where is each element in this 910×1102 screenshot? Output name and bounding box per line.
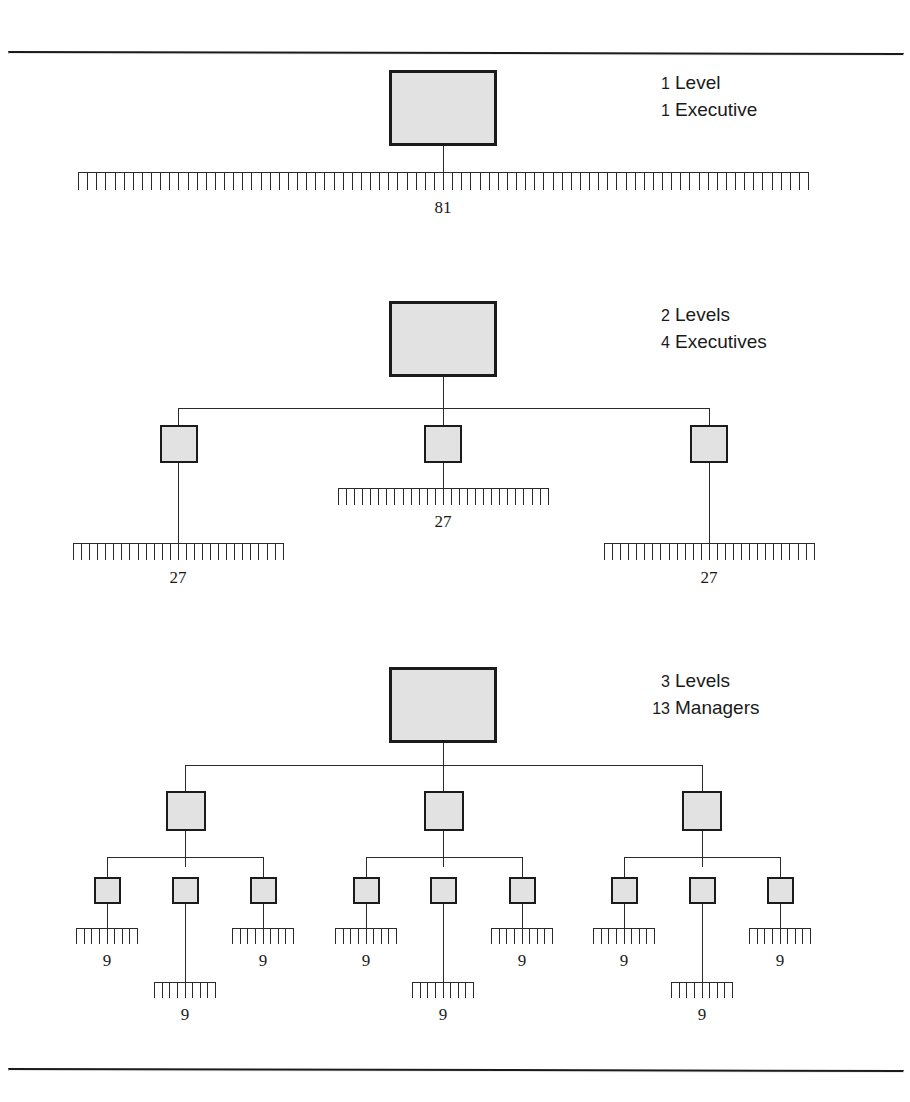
- supervisor-box-p3-c1: [611, 877, 638, 904]
- rake-tooth: [757, 928, 758, 944]
- rake-tooth: [177, 982, 178, 998]
- connector-stem-p3-2: [443, 831, 444, 867]
- supervisor-box-p3-b1: [353, 877, 380, 904]
- rake-teeth-9: [335, 928, 397, 944]
- rake-tooth: [396, 928, 397, 944]
- rake-tooth: [679, 982, 680, 998]
- rake-tooth: [263, 928, 264, 944]
- rake-tooth: [724, 982, 725, 998]
- connector-stem-p3-1: [185, 831, 186, 867]
- connector-stem-p3-a1: [107, 904, 108, 929]
- connector-horizontal-p3-c: [624, 857, 780, 858]
- rake-tooth: [255, 928, 256, 944]
- rake-teeth-9: [491, 928, 553, 944]
- connector-stem-p3-a2: [185, 904, 186, 983]
- rake-tooth: [343, 928, 344, 944]
- supervisor-box-p3-b3: [509, 877, 536, 904]
- rake-teeth-9: [232, 928, 294, 944]
- rake-tooth: [787, 928, 788, 944]
- rake-tooth: [694, 982, 695, 998]
- rake-teeth-9: [593, 928, 655, 944]
- worker-rake-9-c2: [671, 982, 733, 998]
- connector-vertical-top-p3: [443, 743, 444, 791]
- supervisor-box-p3-a1: [94, 877, 121, 904]
- connector-stem-p3-c3: [780, 904, 781, 929]
- rake-tooth: [702, 982, 703, 998]
- manager-box-p3-3: [682, 791, 722, 831]
- worker-count-9-b3: 9: [518, 951, 527, 971]
- rake-tooth: [810, 928, 811, 944]
- rake-tooth: [802, 928, 803, 944]
- connector-drop-p3-a1: [107, 857, 108, 877]
- rake-tooth: [129, 928, 130, 944]
- worker-count-9-c3: 9: [776, 951, 785, 971]
- worker-rake-9-a3: [232, 928, 294, 944]
- connector-drop-p3-b3: [522, 857, 523, 877]
- connector-stem-p3-c1: [624, 904, 625, 929]
- worker-rake-9-a1: [76, 928, 138, 944]
- connector-stem-p3-b3: [522, 904, 523, 929]
- worker-rake-9-c1: [593, 928, 655, 944]
- rake-tooth: [671, 982, 672, 998]
- worker-count-9-a2: 9: [181, 1005, 190, 1025]
- worker-rake-9-b3: [491, 928, 553, 944]
- rake-tooth: [293, 928, 294, 944]
- worker-rake-9-a2: [154, 982, 216, 998]
- rake-tooth: [491, 928, 492, 944]
- rake-tooth: [207, 982, 208, 998]
- worker-count-9-a1: 9: [103, 951, 112, 971]
- worker-rake-9-b2: [412, 982, 474, 998]
- connector-drop-p3-1: [185, 765, 186, 791]
- rake-tooth: [350, 928, 351, 944]
- rake-tooth: [608, 928, 609, 944]
- rake-tooth: [285, 928, 286, 944]
- rake-tooth: [240, 928, 241, 944]
- rake-tooth: [137, 928, 138, 944]
- rake-tooth: [107, 928, 108, 944]
- rake-tooth: [366, 928, 367, 944]
- rake-tooth: [450, 982, 451, 998]
- figure-page: 81 1Level 1Executive 27: [0, 0, 910, 1102]
- rake-teeth-9: [154, 982, 216, 998]
- rake-tooth: [654, 928, 655, 944]
- rake-tooth: [772, 928, 773, 944]
- rake-tooth: [732, 982, 733, 998]
- rake-tooth: [154, 982, 155, 998]
- rake-tooth: [122, 928, 123, 944]
- connector-stem-p3-3: [702, 831, 703, 867]
- legend-roles-word-p3: Managers: [675, 697, 760, 718]
- connector-drop-p3-b1: [366, 857, 367, 877]
- rake-tooth: [388, 928, 389, 944]
- rake-tooth: [624, 928, 625, 944]
- supervisor-box-p3-a3: [250, 877, 277, 904]
- rake-teeth-9: [671, 982, 733, 998]
- rake-tooth: [686, 982, 687, 998]
- connector-stem-p3-b1: [366, 904, 367, 929]
- rake-tooth: [709, 982, 710, 998]
- rake-tooth: [593, 928, 594, 944]
- rake-tooth: [169, 982, 170, 998]
- rake-tooth: [373, 928, 374, 944]
- rake-tooth: [552, 928, 553, 944]
- rake-tooth: [458, 982, 459, 998]
- rake-tooth: [114, 928, 115, 944]
- connector-drop-p3-3: [702, 765, 703, 791]
- rake-teeth-9: [749, 928, 811, 944]
- rake-teeth-9: [76, 928, 138, 944]
- rake-tooth: [215, 982, 216, 998]
- executive-box-p3: [389, 667, 497, 743]
- rake-tooth: [192, 982, 193, 998]
- rake-tooth: [795, 928, 796, 944]
- rake-tooth: [529, 928, 530, 944]
- rake-tooth: [499, 928, 500, 944]
- rake-tooth: [616, 928, 617, 944]
- rake-tooth: [443, 982, 444, 998]
- rake-tooth: [247, 928, 248, 944]
- connector-horizontal-p3-a: [107, 857, 263, 858]
- connector-stem-p3-a3: [263, 904, 264, 929]
- rake-tooth: [646, 928, 647, 944]
- legend-levels-number-p3: 3: [650, 671, 670, 694]
- rake-tooth: [522, 928, 523, 944]
- rake-tooth: [537, 928, 538, 944]
- rake-tooth: [631, 928, 632, 944]
